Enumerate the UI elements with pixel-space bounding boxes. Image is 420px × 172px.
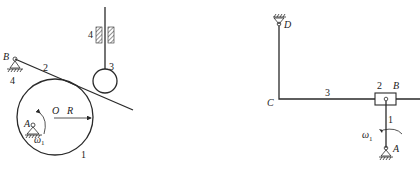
label-slider-2: 2 (377, 80, 382, 91)
right-mechanism: D C 3 2 B 1 ω 1 A (267, 14, 420, 160)
label-roller-3: 3 (109, 61, 114, 72)
label-omega-right: ω (362, 129, 369, 140)
label-radius-R: R (66, 105, 73, 116)
label-pivot-A: A (23, 118, 31, 129)
label-omega: ω (34, 134, 41, 145)
label-pivot-A-right: A (392, 143, 400, 154)
label-link-3: 3 (325, 87, 330, 98)
label-pivot-B: B (3, 51, 9, 62)
label-crank-1: 1 (388, 114, 393, 125)
disc-1 (17, 79, 93, 155)
label-omega-sub: 1 (41, 139, 45, 147)
label-disc-1: 1 (81, 149, 86, 160)
label-pivot-D: D (283, 19, 292, 30)
omega-arrowhead-icon (379, 129, 383, 133)
label-omega-sub-right: 1 (369, 135, 373, 143)
left-mechanism: B 4 2 3 4 O R A ω (3, 7, 133, 160)
label-lever-2: 2 (43, 62, 48, 73)
lever-2 (15, 59, 133, 110)
omega-arc-icon (40, 113, 45, 134)
label-guide-4: 4 (88, 29, 93, 40)
label-joint-C: C (267, 97, 274, 108)
pivot-A-right-icon (379, 146, 393, 160)
label-ground-4: 4 (10, 75, 15, 86)
label-center-O: O (52, 105, 59, 116)
roller-3 (93, 69, 117, 93)
label-joint-B: B (393, 80, 399, 91)
mechanism-diagrams: B 4 2 3 4 O R A ω (0, 0, 420, 172)
